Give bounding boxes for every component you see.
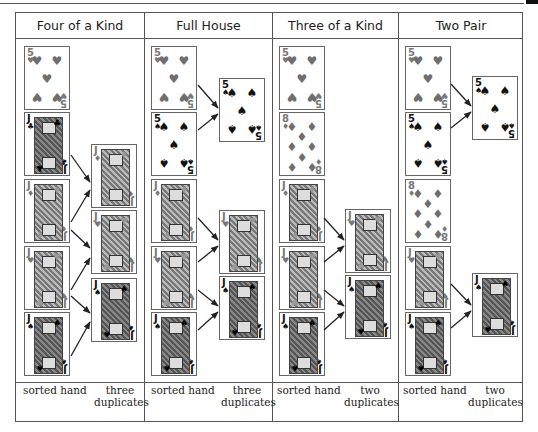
duplicate-card: J♠J♠♠♠ <box>345 275 391 339</box>
sorted-hand-card: J♠J♠♠♠ <box>279 312 325 376</box>
duplicate-card: J♥J♥♥♥ <box>219 210 265 274</box>
suit-pip-icon: ♠ <box>479 85 491 97</box>
jack-portrait-icon: ♥♥ <box>355 214 384 271</box>
footer-duplicates: two duplicates <box>468 384 522 408</box>
suit-pip-icon: ♥ <box>51 91 63 103</box>
footer-duplicates-count: three <box>221 384 273 396</box>
sorted-hand-card: J♠J♠♠♠ <box>151 312 197 376</box>
suit-pip-icon: ♠ <box>178 121 190 133</box>
jack-portrait-icon: ♠♠ <box>415 317 444 374</box>
jack-portrait-icon: ♠♠ <box>229 281 258 338</box>
suit-pip-icon: ♥ <box>286 91 298 103</box>
sorted-hand-card: J♥J♥♥♥ <box>279 246 325 310</box>
duplicate-card: J♥J♥♥♥ <box>91 210 137 274</box>
suit-pip-icon: ♠ <box>432 157 444 169</box>
footer-duplicates-label: duplicates <box>94 396 146 408</box>
sorted-hand-card: 5♥5♥♥♥♥♥♥ <box>279 46 325 110</box>
footer-sorted-hand: sorted hand <box>151 384 215 396</box>
suit-pip-icon: ♥ <box>31 55 43 67</box>
suit-pip-icon: ♠ <box>432 121 444 133</box>
jack-portrait-icon: ♣♣ <box>34 117 63 174</box>
suit-pip-icon: ♠ <box>246 123 258 135</box>
jack-portrait-icon: ♦♦ <box>34 184 63 241</box>
footer-duplicates-count: two <box>344 384 396 396</box>
jack-portrait-icon: ♥♥ <box>415 251 444 308</box>
footer-duplicates-label: duplicates <box>468 396 522 408</box>
sorted-hand-card: 5♠5♠♠♠♠♠♠ <box>405 112 451 176</box>
sorted-hand-card: 5♥5♥♥♥♥♥♥ <box>151 46 197 110</box>
sorted-hand-card: J♥J♥♥♥ <box>24 246 70 310</box>
footer-duplicates: three duplicates <box>221 384 273 408</box>
suit-pip-icon: ♥ <box>158 55 170 67</box>
suit-pip-icon: ♥ <box>422 73 434 85</box>
sorted-hand-card: J♦J♦♦♦ <box>279 179 325 243</box>
suit-pip-icon: ♠ <box>168 139 180 151</box>
column-title-full-house: Full House <box>145 13 272 39</box>
footer-duplicates: two duplicates <box>344 384 396 408</box>
column-title-four-of-a-kind: Four of a Kind <box>16 13 144 39</box>
sorted-hand-card: 5♥5♥♥♥♥♥♥ <box>405 46 451 110</box>
footer-duplicates: three duplicates <box>94 384 146 408</box>
sorted-hand-card: 5♥5♥♥♥♥♥♥ <box>24 46 70 110</box>
suit-pip-icon: ♥ <box>31 91 43 103</box>
suit-pip-icon: ♥ <box>41 73 53 85</box>
jack-portrait-icon: ♦♦ <box>101 149 130 206</box>
footer-duplicates-count: two <box>468 384 522 396</box>
footer-sorted-hand: sorted hand <box>23 384 87 396</box>
suit-pip-icon: ♦ <box>432 228 444 240</box>
suit-pip-icon: ♠ <box>158 157 170 169</box>
suit-pip-icon: ♥ <box>306 91 318 103</box>
duplicate-card: J♦J♦♦♦ <box>91 144 137 208</box>
jack-portrait-icon: ♥♥ <box>101 215 130 272</box>
suit-pip-icon: ♠ <box>422 139 434 151</box>
suit-pip-icon: ♥ <box>432 55 444 67</box>
suit-pip-icon: ♠ <box>479 121 491 133</box>
sorted-hand-card: 5♠5♠♠♠♠♠♠ <box>151 112 197 176</box>
duplicate-card: J♠J♠♠♠ <box>91 278 137 342</box>
footer-divider <box>16 382 522 383</box>
suit-pip-icon: ♦ <box>286 161 298 173</box>
jack-portrait-icon: ♥♥ <box>161 251 190 308</box>
jack-portrait-icon: ♠♠ <box>34 317 63 374</box>
top-rule <box>0 3 524 4</box>
footer-duplicates-label: duplicates <box>344 396 396 408</box>
column-title-two-pair: Two Pair <box>399 13 523 39</box>
suit-pip-icon: ♥ <box>51 55 63 67</box>
duplicate-card: J♠J♠♠♠ <box>219 276 265 340</box>
suit-pip-icon: ♥ <box>412 91 424 103</box>
jack-portrait-icon: ♠♠ <box>355 280 384 337</box>
sorted-hand-card: J♠J♠♠♠ <box>24 312 70 376</box>
duplicate-card: 5♠5♠♠♠♠♠♠ <box>472 76 518 140</box>
suit-pip-icon: ♠ <box>412 121 424 133</box>
suit-pip-icon: ♠ <box>499 121 511 133</box>
suit-pip-icon: ♠ <box>226 87 238 99</box>
suit-pip-icon: ♠ <box>489 103 501 115</box>
sorted-hand-card: J♦J♦♦♦ <box>24 179 70 243</box>
footer-duplicates-count: three <box>94 384 146 396</box>
suit-pip-icon: ♥ <box>306 55 318 67</box>
suit-pip-icon: ♥ <box>296 73 308 85</box>
duplicate-card: 5♠5♠♠♠♠♠♠ <box>219 78 265 142</box>
suit-pip-icon: ♠ <box>246 87 258 99</box>
suit-pip-icon: ♥ <box>168 73 180 85</box>
suit-pip-icon: ♠ <box>178 157 190 169</box>
sorted-hand-card: J♦J♦♦♦ <box>151 179 197 243</box>
suit-pip-icon: ♠ <box>412 157 424 169</box>
suit-pip-icon: ♦ <box>412 228 424 240</box>
jack-portrait-icon: ♠♠ <box>101 283 130 340</box>
sorted-hand-card: J♠J♠♠♠ <box>405 312 451 376</box>
suit-pip-icon: ♠ <box>158 121 170 133</box>
jack-portrait-icon: ♦♦ <box>161 184 190 241</box>
footer-sorted-hand: sorted hand <box>277 384 341 396</box>
column-divider <box>398 13 399 421</box>
sorted-hand-card: J♥J♥♥♥ <box>151 246 197 310</box>
suit-pip-icon: ♥ <box>158 91 170 103</box>
suit-pip-icon: ♠ <box>236 105 248 117</box>
sorted-hand-card: 8♦8♦♦♦♦♦♦♦♦♦ <box>405 179 451 243</box>
jack-portrait-icon: ♥♥ <box>229 215 258 272</box>
column-title-three-of-a-kind: Three of a Kind <box>273 13 398 39</box>
suit-pip-icon: ♥ <box>432 91 444 103</box>
suit-pip-icon: ♥ <box>412 55 424 67</box>
suit-pip-icon: ♥ <box>178 55 190 67</box>
jack-portrait-icon: ♥♥ <box>289 251 318 308</box>
